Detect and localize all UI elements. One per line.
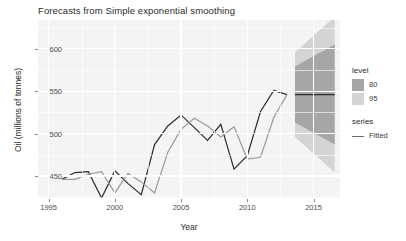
y-tick-label: 600 [49,45,62,54]
plot-series-layer [38,20,340,198]
legend-label-95: 95 [369,94,377,103]
gridline-minor-vertical [148,20,149,198]
gridline-major-horizontal [38,175,340,176]
gridline-major-horizontal [38,133,340,134]
legend-item-fitted[interactable]: Fitted [352,129,406,142]
legend-group-level: level 80 95 [352,66,406,105]
legend-item-80[interactable]: 80 [352,78,406,91]
chart-title: Forecasts from Simple exponential smooth… [38,5,235,16]
series-line-data [62,90,287,198]
gridline-minor-horizontal [38,70,340,71]
legend-title-series: series [352,117,406,126]
legend-label-80: 80 [369,80,377,89]
gridline-major-vertical [114,20,115,198]
x-tick-mark [247,199,248,203]
gridline-minor-vertical [214,20,215,198]
gridline-major-vertical [180,20,181,198]
legend-title-level: level [352,66,406,75]
gridline-major-vertical [247,20,248,198]
x-tick-label: 2005 [173,203,190,212]
legend-swatch-95 [352,93,364,105]
legend-line-fitted [352,130,364,142]
gridline-minor-vertical [280,20,281,198]
y-tick-label: 500 [49,130,62,139]
x-tick-label: 2010 [239,203,256,212]
plot-panel [38,20,340,198]
series-line-fitted [62,95,287,193]
y-axis-title: Oil (millions of tonnes) [13,40,23,180]
x-tick-label: 2015 [305,203,322,212]
y-tick-mark [35,49,39,50]
gridline-minor-horizontal [38,112,340,113]
gridline-minor-vertical [82,20,83,198]
gridline-major-horizontal [38,48,340,49]
chart-container: Forecasts from Simple exponential smooth… [0,0,406,241]
y-tick-mark [35,134,39,135]
y-tick-mark [35,91,39,92]
x-tick-label: 2000 [106,203,123,212]
x-tick-mark [49,199,50,203]
x-tick-mark [115,199,116,203]
y-tick-mark [35,176,39,177]
gridline-minor-horizontal [38,197,340,198]
y-tick-label: 550 [49,87,62,96]
legend-label-fitted: Fitted [369,131,388,140]
gridline-major-vertical [313,20,314,198]
gridline-major-horizontal [38,91,340,92]
x-tick-mark [181,199,182,203]
gridline-minor-horizontal [38,155,340,156]
legend: level 80 95 series Fitted [352,66,406,143]
x-tick-label: 1995 [40,203,57,212]
legend-swatch-80 [352,79,364,91]
legend-group-series: series Fitted [352,117,406,142]
y-tick-label: 450 [49,172,62,181]
x-tick-mark [314,199,315,203]
x-axis-title: Year [38,222,340,232]
legend-item-95[interactable]: 95 [352,92,406,105]
gridline-minor-horizontal [38,28,340,29]
